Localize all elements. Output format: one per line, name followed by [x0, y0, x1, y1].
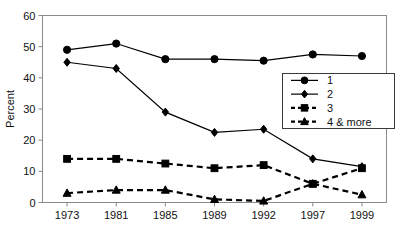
data-point-square — [162, 160, 169, 167]
data-point-circle — [63, 46, 70, 53]
y-tick-label: 50 — [23, 41, 35, 53]
data-point-square — [260, 162, 267, 169]
data-point-triangle — [358, 191, 366, 198]
data-point-square — [64, 155, 71, 162]
series-1 — [63, 40, 365, 64]
data-point-circle — [301, 77, 308, 84]
y-axis-ticks: 0102030405060 — [23, 10, 42, 209]
legend-label: 3 — [327, 102, 333, 114]
x-tick-label: 1989 — [202, 209, 226, 221]
data-point-diamond — [310, 155, 316, 163]
line-chart: 0102030405060 19731981198519891992199719… — [0, 0, 410, 241]
data-point-square — [301, 105, 307, 111]
data-point-square — [359, 165, 366, 172]
data-point-diamond — [260, 125, 266, 133]
y-tick-label: 20 — [23, 134, 35, 146]
x-tick-label: 1981 — [104, 209, 128, 221]
series-4 — [63, 180, 366, 204]
chart-legend[interactable]: 1234 & more — [283, 74, 395, 129]
data-point-diamond — [162, 108, 168, 116]
data-point-circle — [113, 40, 120, 47]
data-point-square — [113, 155, 120, 162]
data-point-circle — [309, 51, 316, 58]
legend-label: 1 — [327, 74, 333, 86]
data-point-diamond — [113, 64, 119, 72]
legend-label: 2 — [327, 88, 333, 100]
data-point-circle — [162, 56, 169, 63]
x-tick-label: 1997 — [301, 209, 325, 221]
data-point-square — [211, 165, 218, 172]
x-tick-label: 1985 — [153, 209, 177, 221]
y-tick-label: 40 — [23, 72, 35, 84]
y-tick-label: 0 — [29, 197, 35, 209]
data-point-diamond — [64, 58, 70, 66]
data-point-circle — [358, 52, 365, 59]
x-tick-label: 1973 — [55, 209, 79, 221]
data-point-circle — [211, 56, 218, 63]
y-tick-label: 10 — [23, 165, 35, 177]
x-axis-ticks: 1973198119851989199219971999 — [55, 203, 374, 221]
data-point-circle — [260, 57, 267, 64]
x-tick-label: 1999 — [350, 209, 374, 221]
legend-label: 4 & more — [327, 116, 372, 128]
y-tick-label: 60 — [23, 10, 35, 22]
x-tick-label: 1992 — [251, 209, 275, 221]
y-axis-title: Percent — [4, 90, 16, 128]
data-point-diamond — [211, 128, 217, 136]
chart-figure: 0102030405060 19731981198519891992199719… — [0, 0, 410, 241]
y-tick-label: 30 — [23, 103, 35, 115]
